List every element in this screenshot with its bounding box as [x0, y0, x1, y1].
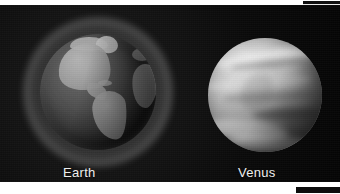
venus-globe [208, 38, 322, 152]
earth-panel [23, 17, 173, 167]
earth-limb-highlight [40, 34, 156, 150]
caption-earth: Earth [63, 165, 96, 180]
caption-venus: Venus [238, 165, 276, 180]
planet-comparison-figure: Earth Venus [0, 5, 340, 182]
venus-terminator-shading [208, 38, 322, 152]
bottom-right-edge-bar [296, 186, 340, 194]
earth-globe [40, 34, 156, 150]
